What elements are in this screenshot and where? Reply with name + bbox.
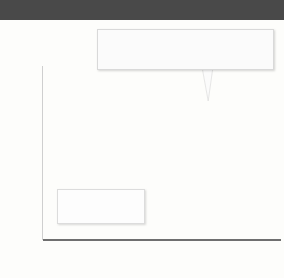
- annotation-text: [98, 30, 273, 35]
- callout-pointer-icon: [202, 67, 214, 101]
- legend-item-aquaculture: [65, 196, 76, 205]
- y-axis-line: [42, 66, 43, 240]
- legend-swatch-aquaculture: [65, 197, 72, 204]
- legend-swatch-wild-fisheries: [65, 209, 72, 216]
- chart-figure: [0, 0, 284, 278]
- legend-item-wild-fisheries: [65, 208, 76, 217]
- annotation-callout: [97, 29, 274, 70]
- chart-legend: [57, 189, 145, 224]
- x-axis-line: [43, 239, 281, 241]
